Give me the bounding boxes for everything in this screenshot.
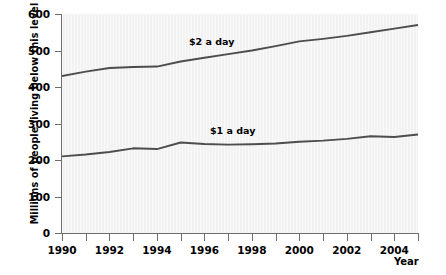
y-tick-label: 300 xyxy=(14,118,50,130)
y-tick-mark xyxy=(55,51,62,52)
x-tick-label: 1990 xyxy=(40,244,84,256)
y-tick-mark xyxy=(55,124,62,125)
x-tick-label: 1994 xyxy=(135,244,179,256)
y-tick-label: 600 xyxy=(14,8,50,20)
series-label-1-a-day: $1 a day xyxy=(210,125,255,136)
series-label-2-a-day: $2 a day xyxy=(189,36,234,47)
series-line-1-a-day xyxy=(62,134,418,156)
x-tick-label: 1998 xyxy=(230,244,274,256)
x-tick-mark xyxy=(109,234,110,241)
y-tick-label: 200 xyxy=(14,154,50,166)
y-tick-mark xyxy=(55,197,62,198)
y-tick-label: 400 xyxy=(14,81,50,93)
y-tick-100: 100 xyxy=(0,197,446,198)
x-tick-mark xyxy=(323,234,324,241)
x-tick-label: 2004 xyxy=(372,244,416,256)
chart-figure: Millions of people living below this lev… xyxy=(0,0,446,275)
y-tick-mark xyxy=(55,233,62,234)
x-tick-label: 2002 xyxy=(325,244,369,256)
x-tick-mark xyxy=(157,234,158,241)
x-axis-title: Year xyxy=(394,256,419,267)
x-tick-mark xyxy=(418,234,419,241)
x-tick-mark xyxy=(299,234,300,241)
y-tick-mark xyxy=(55,160,62,161)
x-tick-mark xyxy=(347,234,348,241)
x-tick-mark xyxy=(62,234,63,241)
x-tick-mark xyxy=(276,234,277,241)
y-tick-label: 100 xyxy=(14,191,50,203)
y-tick-200: 200 xyxy=(0,160,446,161)
y-tick-mark xyxy=(55,87,62,88)
x-tick-mark xyxy=(252,234,253,241)
y-tick-label: 500 xyxy=(14,45,50,57)
x-tick-mark xyxy=(133,234,134,241)
y-tick-500: 500 xyxy=(0,51,446,52)
y-tick-label: 0 xyxy=(14,227,50,239)
y-tick-600: 600 xyxy=(0,14,446,15)
x-tick-mark xyxy=(371,234,372,241)
x-tick-mark xyxy=(394,234,395,241)
y-tick-400: 400 xyxy=(0,87,446,88)
x-tick-mark xyxy=(204,234,205,241)
x-tick-mark xyxy=(86,234,87,241)
x-tick-mark xyxy=(181,234,182,241)
y-tick-mark xyxy=(55,14,62,15)
x-tick-mark xyxy=(228,234,229,241)
x-tick-label: 2000 xyxy=(277,244,321,256)
x-tick-label: 1992 xyxy=(87,244,131,256)
x-tick-label: 1996 xyxy=(182,244,226,256)
y-tick-0: 0 xyxy=(0,233,446,234)
